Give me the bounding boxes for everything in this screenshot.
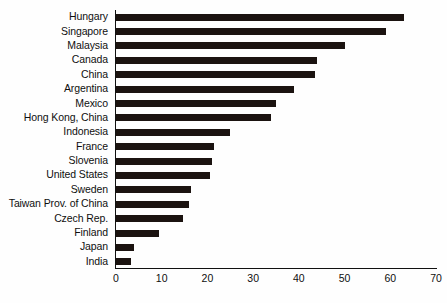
bar [116,114,271,121]
category-label: Slovenia [0,155,108,166]
category-label: Czech Rep. [0,213,108,224]
category-label: Malaysia [0,40,108,51]
bar-chart: HungarySingaporeMalaysiaCanadaChinaArgen… [0,0,447,303]
bar [116,172,210,179]
x-tick-label: 0 [113,272,119,284]
value-axis-ticks: 010203040506070 [116,272,446,288]
category-label: Singapore [0,26,108,37]
bar [116,230,159,237]
x-tick-label: 70 [430,272,442,284]
bar [116,215,183,222]
category-label: Taiwan Prov. of China [0,198,108,209]
category-label: Japan [0,241,108,252]
category-axis-labels: HungarySingaporeMalaysiaCanadaChinaArgen… [0,10,112,269]
bar [116,100,276,107]
category-label: India [0,256,108,267]
bar [116,28,386,35]
x-tick-label: 60 [384,272,396,284]
x-axis-line [115,268,437,269]
category-label: Hungary [0,11,108,22]
x-tick-label: 10 [156,272,168,284]
bar [116,14,404,21]
category-label: Hong Kong, China [0,112,108,123]
bar [116,258,131,265]
category-label: Indonesia [0,126,108,137]
category-label: Argentina [0,83,108,94]
bar [116,158,212,165]
category-label: France [0,141,108,152]
x-tick-label: 50 [339,272,351,284]
bar [116,57,317,64]
bar [116,186,191,193]
plot-area [116,10,436,269]
bar [116,143,214,150]
category-label: Finland [0,227,108,238]
bar [116,201,189,208]
category-label: China [0,69,108,80]
bar [116,129,230,136]
category-label: United States [0,169,108,180]
x-tick-label: 30 [247,272,259,284]
category-label: Sweden [0,184,108,195]
bar [116,42,345,49]
category-label: Mexico [0,98,108,109]
category-label: Canada [0,54,108,65]
x-tick-label: 40 [293,272,305,284]
x-tick-label: 20 [202,272,214,284]
bar [116,244,134,251]
bar [116,71,315,78]
bar [116,86,294,93]
